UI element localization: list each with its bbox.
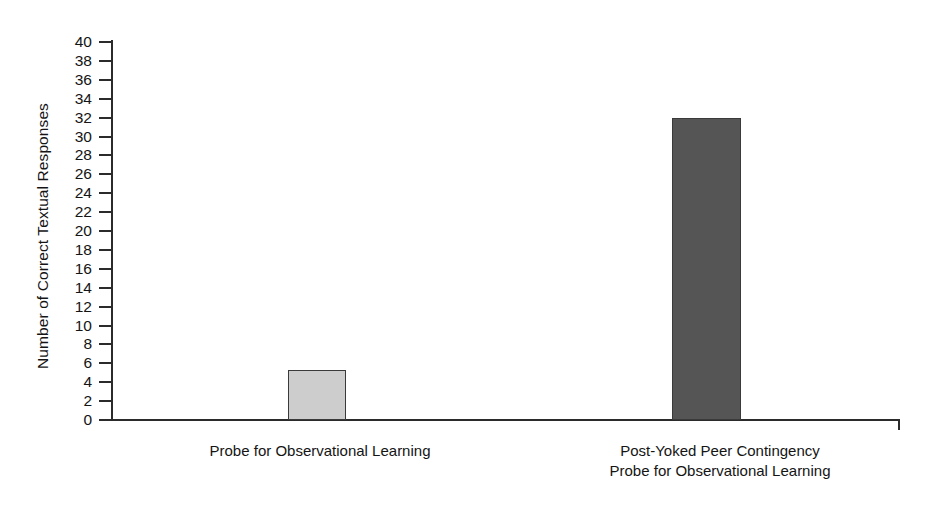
y-axis-tick-label: 10 <box>48 318 92 334</box>
y-axis-tick <box>99 117 111 119</box>
y-axis-tick <box>99 60 111 62</box>
y-axis-tick-labels: 4038363432302826242220181614121086420 <box>46 0 92 513</box>
y-axis-tick-label: 26 <box>48 166 92 182</box>
y-axis-tick-label: 34 <box>48 91 92 107</box>
y-axis-tick <box>99 173 111 175</box>
y-axis-tick-label: 28 <box>48 147 92 163</box>
x-axis-category-label-1: Post-Yoked Peer Contingency Probe for Ob… <box>534 441 906 480</box>
y-axis-tick-label: 32 <box>48 110 92 126</box>
bar-0 <box>288 370 346 420</box>
y-axis-tick <box>99 268 111 270</box>
y-axis-tick-label: 16 <box>48 261 92 277</box>
y-axis-tick <box>99 287 111 289</box>
y-axis-tick <box>99 230 111 232</box>
y-axis-tick-label: 20 <box>48 223 92 239</box>
bar-1 <box>672 118 741 420</box>
y-axis-tick-label: 6 <box>48 355 92 371</box>
y-axis-tick <box>99 419 111 421</box>
y-axis-tick-label: 14 <box>48 280 92 296</box>
y-axis-tick <box>99 343 111 345</box>
y-axis-tick <box>99 41 111 43</box>
y-axis-tick <box>99 211 111 213</box>
y-axis-tick-label: 0 <box>48 412 92 428</box>
x-axis-category-label-0: Probe for Observational Learning <box>135 441 505 461</box>
y-axis-tick <box>99 325 111 327</box>
y-axis-tick <box>99 249 111 251</box>
y-axis-tick <box>99 381 111 383</box>
y-axis-tick-label: 2 <box>48 393 92 409</box>
y-axis-tick-label: 12 <box>48 299 92 315</box>
plot-area <box>113 42 900 420</box>
bar-chart: Number of Correct Textual Responses 4038… <box>0 0 941 513</box>
y-axis-tick <box>99 79 111 81</box>
y-axis-tick <box>99 362 111 364</box>
y-axis-tick <box>99 98 111 100</box>
y-axis-tick-label: 18 <box>48 242 92 258</box>
y-axis-tick-label: 40 <box>48 34 92 50</box>
x-axis-end-cap <box>898 419 900 430</box>
y-axis-tick <box>99 192 111 194</box>
y-axis-tick-label: 36 <box>48 72 92 88</box>
y-axis-tick <box>99 154 111 156</box>
y-axis-tick-label: 24 <box>48 185 92 201</box>
y-axis-tick <box>99 400 111 402</box>
y-axis-tick-label: 8 <box>48 336 92 352</box>
y-axis-tick-label: 22 <box>48 204 92 220</box>
y-axis-tick <box>99 136 111 138</box>
y-axis-tick <box>99 306 111 308</box>
y-axis-tick-label: 30 <box>48 129 92 145</box>
y-axis-tick-label: 38 <box>48 53 92 69</box>
y-axis-tick-label: 4 <box>48 374 92 390</box>
